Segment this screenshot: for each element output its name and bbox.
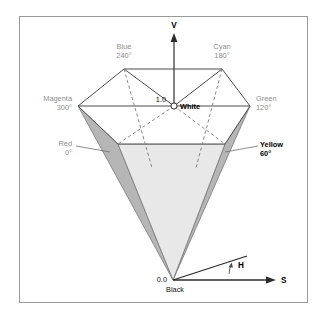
h-angle-group: H [173,256,247,280]
hue-label-blue-angle: 240° [116,51,131,60]
hue-label-yellow-name: Yellow [260,140,283,149]
black-label: Black [166,285,184,294]
white-label: White [180,102,200,111]
hue-label-magenta-angle: 300° [57,103,72,112]
s-axis-group: S [173,276,287,285]
hue-label-green-angle: 120° [256,103,271,112]
s-axis-label: S [281,276,287,285]
h-angle-ray [173,256,247,280]
hue-label-cyan: Cyan 180° [213,42,230,60]
s-axis-arrowhead [266,276,276,283]
hsv-hexcone-svg: V White 1.0 0.0 Black S H Blue [0,0,327,329]
h-angle-arc-arrowhead [229,263,233,268]
v-axis-arrowhead [171,33,178,42]
hue-label-blue-name: Blue [117,42,132,51]
hue-label-red-angle: 0° [65,148,72,157]
v-axis-label: V [171,21,177,30]
hue-label-yellow-angle: 60° [260,149,271,158]
value-bottom-label: 0.0 [157,275,167,284]
h-angle-label: H [238,261,244,270]
hue-label-red-name: Red [58,139,72,148]
figure-page: V White 1.0 0.0 Black S H Blue [0,0,327,329]
white-point-marker [171,103,177,109]
cone-face-front [118,144,225,280]
hue-label-green: Green 120° [256,94,277,112]
hue-label-magenta-name: Magenta [43,94,73,103]
hue-label-blue: Blue 240° [116,42,131,60]
hue-label-magenta: Magenta 300° [43,94,73,112]
hue-label-green-name: Green [256,94,277,103]
value-top-label: 1.0 [156,95,166,104]
hue-label-cyan-angle: 180° [214,51,229,60]
hue-label-cyan-name: Cyan [213,42,230,51]
